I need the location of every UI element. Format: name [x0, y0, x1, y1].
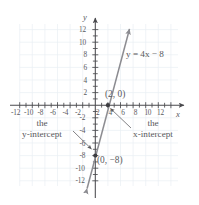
x-intercept-note-line1: the [117, 118, 189, 128]
x-tick-label: 6 [121, 109, 124, 116]
graph-figure: y x 12 10 8 6 4 2 -2 -4 -6 -8 -10 -12 -1… [0, 0, 199, 205]
x-tick-label: 4 [109, 109, 112, 116]
y-tick-label: -8 [80, 152, 86, 159]
x-intercept-note: the x-intercept [117, 118, 189, 139]
point-x-intercept [106, 103, 110, 107]
y-tick-label: -6 [80, 140, 86, 147]
x-tick-label: 8 [134, 109, 137, 116]
y-tick-label: 4 [84, 77, 87, 84]
x-tick-label: 2 [96, 109, 99, 116]
x-tick-label: -6 [50, 109, 56, 116]
y-tick-label: -10 [76, 165, 85, 172]
x-tick-label: -2 [75, 109, 81, 116]
x-tick-label: 12 [157, 109, 164, 116]
y-intercept-note: the y-intercept [8, 118, 76, 139]
x-tick-label: -10 [24, 109, 33, 116]
y-intercept-note-line2: y-intercept [8, 129, 76, 139]
y-tick-label: -12 [76, 177, 85, 184]
y-intercept-point-label: (0, −8) [97, 156, 123, 165]
x-tick-label: -8 [38, 109, 44, 116]
x-tick-label: -4 [63, 109, 69, 116]
y-tick-label: 8 [84, 51, 87, 58]
y-tick-label: 10 [79, 39, 86, 46]
x-tick-label: 10 [144, 109, 151, 116]
x-tick-label: -12 [11, 109, 20, 116]
y-tick-label: 6 [84, 64, 87, 71]
y-tick-label: 2 [84, 89, 87, 96]
x-intercept-note-line2: x-intercept [117, 129, 189, 139]
y-axis-label: y [83, 13, 87, 22]
y-intercept-note-line1: the [8, 118, 76, 128]
x-intercept-point-label: (2, 0) [105, 90, 125, 99]
y-tick-label: -4 [80, 127, 86, 134]
y-tick-label: 12 [79, 26, 86, 33]
plot-canvas [0, 0, 199, 205]
equation-label: y = 4x − 8 [126, 50, 164, 59]
